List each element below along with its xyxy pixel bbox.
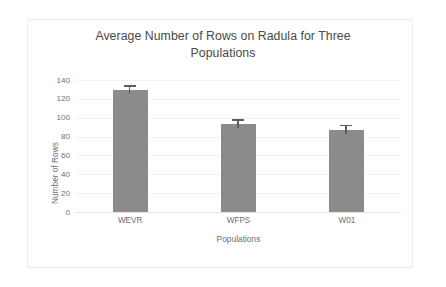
x-tick-label: WEVR bbox=[95, 216, 165, 226]
bar-group[interactable] bbox=[113, 80, 148, 212]
y-tick-label: 60 bbox=[36, 151, 70, 160]
plot-area bbox=[76, 80, 401, 212]
y-axis-tick-labels: 020406080100120140 bbox=[36, 80, 70, 212]
error-bar bbox=[345, 126, 347, 134]
x-tick-label: WFPS bbox=[204, 216, 274, 226]
chart-title-line-2: Populations bbox=[40, 45, 406, 62]
y-tick-label: 100 bbox=[36, 113, 70, 122]
x-tick-label: W01 bbox=[312, 216, 382, 226]
bar-group[interactable] bbox=[221, 80, 256, 212]
error-bar-cap-top bbox=[232, 119, 244, 121]
y-tick-label: 80 bbox=[36, 132, 70, 141]
chart-container: Average Number of Rows on Radula for Thr… bbox=[0, 0, 446, 287]
bar[interactable] bbox=[221, 124, 256, 212]
error-bar-cap-top bbox=[340, 125, 352, 127]
bar[interactable] bbox=[113, 90, 148, 212]
y-tick-label: 20 bbox=[36, 189, 70, 198]
y-tick-label: 40 bbox=[36, 170, 70, 179]
bar[interactable] bbox=[329, 130, 364, 212]
y-tick-label: 140 bbox=[36, 76, 70, 85]
y-tick-label: 120 bbox=[36, 94, 70, 103]
error-bar bbox=[237, 121, 239, 129]
x-axis-title: Populations bbox=[76, 234, 401, 244]
y-tick-label: 0 bbox=[36, 208, 70, 217]
bar-group[interactable] bbox=[329, 80, 364, 212]
error-bar bbox=[129, 87, 131, 95]
gridline bbox=[76, 212, 401, 213]
error-bar-cap-top bbox=[124, 85, 136, 87]
chart-title: Average Number of Rows on Radula for Thr… bbox=[40, 28, 406, 61]
chart-title-line-1: Average Number of Rows on Radula for Thr… bbox=[40, 28, 406, 45]
x-axis-tick-labels: WEVRWFPSW01 bbox=[76, 216, 401, 228]
